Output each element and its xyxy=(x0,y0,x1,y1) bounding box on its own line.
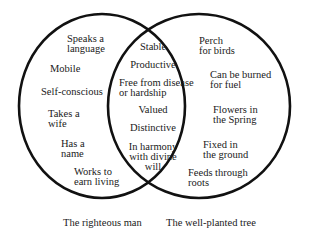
left-item-takes-wife: Takes a wife xyxy=(48,109,80,129)
left-item-mobile: Mobile xyxy=(50,64,80,74)
left-item-speaks-language: Speaks a language xyxy=(67,34,105,54)
shared-item-distinctive: Distinctive xyxy=(118,123,188,133)
right-item-flowers-spring: Flowers in the Spring xyxy=(213,105,258,125)
shared-item-harmony-divine-will: In harmony with divine will xyxy=(118,142,188,172)
shared-item-valued: Valued xyxy=(118,105,188,115)
left-item-works-earn-living: Works to earn living xyxy=(74,167,119,187)
right-item-perch-for-birds: Perch for birds xyxy=(199,36,235,56)
caption-righteous-man: The righteous man xyxy=(63,217,142,228)
left-item-has-name: Has a name xyxy=(61,139,85,159)
shared-item-productive: Productive xyxy=(118,60,188,70)
caption-well-planted-tree: The well-planted tree xyxy=(166,217,256,228)
right-item-fixed-ground: Fixed in the ground xyxy=(203,140,248,160)
right-item-burned-for-fuel: Can be burned for fuel xyxy=(210,70,271,90)
left-item-self-conscious: Self-conscious xyxy=(41,87,103,97)
shared-item-free-from-disease: Free from disease or hardship xyxy=(119,78,194,98)
right-item-feeds-through-roots: Feeds through roots xyxy=(188,168,248,188)
shared-item-stable: Stable xyxy=(118,42,188,52)
